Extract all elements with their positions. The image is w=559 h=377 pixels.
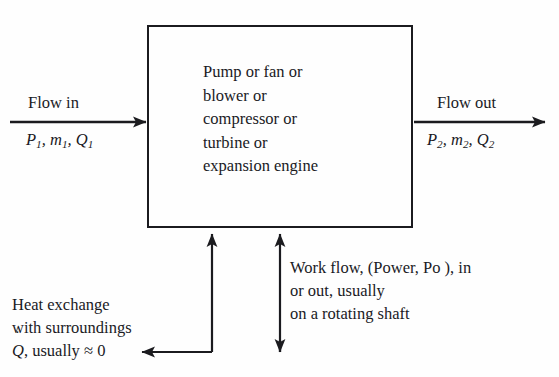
inlet-volumeflow-subscript: 1 — [88, 138, 94, 150]
outlet-variables: P2, m2, Q2 — [427, 128, 494, 156]
inlet-volumeflow-symbol: Q — [76, 130, 88, 149]
heat-exchange-line-3: Q, usually ≈ 0 — [12, 339, 192, 362]
inlet-label: Flow in — [28, 91, 79, 114]
heat-exchange-line-1: Heat exchange — [12, 293, 192, 316]
work-flow-line-3: on a rotating shaft — [290, 302, 530, 325]
work-flow-line-1: Work flow, (Power, Po ), in — [290, 256, 530, 279]
inlet-pressure-symbol: P — [26, 130, 36, 149]
device-line-1: Pump or fan or — [203, 60, 413, 84]
heat-exchange-label: Heat exchange with surroundings Q, usual… — [12, 293, 192, 362]
outlet-massflow-symbol: m — [451, 128, 463, 151]
heat-rate-symbol: Q — [12, 339, 24, 362]
heat-exchange-line-2: with surroundings — [12, 316, 192, 339]
outlet-label: Flow out — [437, 91, 496, 114]
inlet-massflow-symbol: m — [50, 128, 62, 151]
work-flow-label: Work flow, (Power, Po ), in or out, usua… — [290, 256, 530, 325]
control-volume-label: Pump or fan or blower or compressor or t… — [203, 60, 413, 178]
outlet-volumeflow-symbol: Q — [477, 130, 489, 149]
device-line-2: blower or — [203, 84, 413, 108]
inlet-separator-2: , — [67, 130, 75, 149]
outlet-separator-2: , — [468, 130, 476, 149]
diagram-canvas: Pump or fan or blower or compressor or t… — [0, 0, 559, 377]
device-line-5: expansion engine — [203, 154, 413, 178]
outlet-separator-1: , — [443, 130, 451, 149]
device-line-4: turbine or — [203, 131, 413, 155]
work-flow-line-2: or out, usually — [290, 279, 530, 302]
inlet-variables: P1, m1, Q1 — [26, 128, 93, 156]
inlet-separator-1: , — [42, 130, 50, 149]
device-line-3: compressor or — [203, 107, 413, 131]
outlet-pressure-symbol: P — [427, 130, 437, 149]
heat-exchange-line-3-tail: , usually ≈ 0 — [24, 341, 105, 360]
outlet-volumeflow-subscript: 2 — [489, 138, 495, 150]
